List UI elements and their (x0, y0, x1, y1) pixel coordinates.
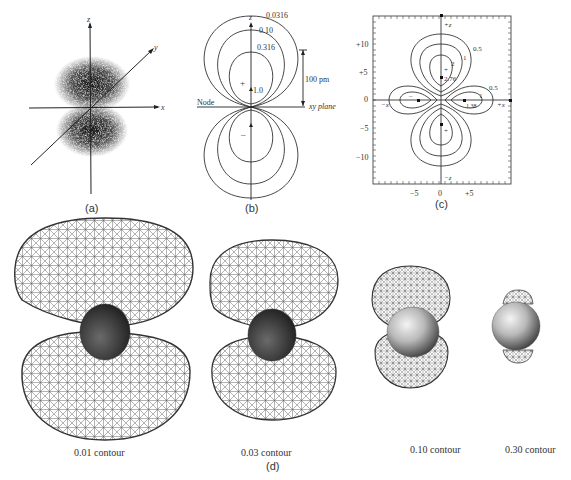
panel-b-labels: z 0.0316 0.10 0.316 1.0 + – 100 pm Node … (197, 11, 336, 214)
contour-label-upper-peak: 2.76 (444, 75, 457, 83)
panel-b-caption: (b) (245, 202, 258, 214)
axis-label-minus-z: −z (444, 174, 452, 182)
z-axis-label: z (86, 15, 91, 24)
y-tick-0: 0 (364, 95, 368, 104)
nucleus-marker-lower (249, 123, 253, 127)
axis-label-plus-x: +x (497, 101, 506, 109)
contour-label-upper-1: 1 (463, 54, 467, 62)
panel-a-caption: (a) (85, 202, 98, 214)
contour-label-upper-2: 2 (451, 60, 455, 68)
panel-d-caption: (d) (266, 460, 279, 472)
node-label: Node (197, 98, 215, 107)
axis-label-plus-z: +z (444, 21, 452, 29)
panel-c-labels: +10 +5 0 −5 −10 −5 0 +5 +z −z +x −x 0.5 … (356, 21, 506, 210)
contour-label-right-0-5: 0.5 (489, 84, 498, 92)
y-axis-label: y (153, 43, 158, 52)
isosurface-0-01: 0.01 contour (15, 218, 193, 458)
x-tick-minus5: −5 (410, 189, 419, 198)
y-tick-minus5: −5 (360, 124, 369, 133)
figure-canvas: z y x (a) z 0.0316 0.10 0.316 1.0 + – 10… (0, 0, 571, 480)
x-tick-0: 0 (438, 189, 442, 198)
scale-bar-label: 100 pm (305, 75, 330, 84)
panel-c-contour-plot (373, 14, 512, 184)
panel-b-contour-plot (197, 16, 307, 200)
isosurface-0-03: 0.03 contour (d) (210, 240, 338, 472)
xy-plane-label: xy plane (308, 102, 336, 111)
contour-label-upper-0-5: 0.5 (473, 45, 482, 53)
panel-c-caption: (c) (435, 198, 448, 210)
sign-lower: + (444, 127, 448, 135)
z-axis-label: z (248, 13, 253, 22)
contour-label-right-1: 1 (479, 92, 483, 100)
axis-label-minus-x: −x (381, 101, 390, 109)
isosurface-label-0-10: 0.10 contour (410, 444, 461, 455)
minus-sign: – (240, 129, 246, 139)
contour-label-0-10: 0.10 (259, 26, 273, 35)
x-axis-label: x (160, 103, 165, 112)
isosurface-label-0-01: 0.01 contour (74, 447, 125, 458)
plus-sign: + (240, 78, 245, 88)
y-tick-plus10: +10 (356, 40, 369, 49)
isosurface-0-30: 0.30 contour (492, 290, 556, 455)
contour-label-right-peak: 1.38 (466, 103, 477, 109)
isosurface-label-0-03: 0.03 contour (241, 447, 292, 458)
isosurface-label-0-30: 0.30 contour (505, 444, 556, 455)
y-tick-minus10: −10 (356, 153, 369, 162)
contour-label-1-0: 1.0 (253, 86, 263, 95)
contour-label-0-316: 0.316 (257, 43, 275, 52)
sign-left: – (408, 92, 413, 100)
panel-a-electron-cloud: z y x (a) (29, 15, 165, 214)
contour-label-0-0316: 0.0316 (266, 11, 288, 20)
isosurface-0-10: 0.10 contour (372, 266, 461, 455)
sign-upper: + (444, 66, 448, 74)
x-tick-plus5: +5 (465, 189, 474, 198)
y-tick-plus5: +5 (359, 68, 368, 77)
